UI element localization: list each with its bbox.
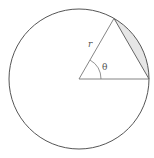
angle-arc <box>90 60 101 79</box>
circle-segment-diagram: r θ <box>0 0 154 158</box>
angle-label: θ <box>102 62 107 72</box>
radius-label: r <box>88 39 93 49</box>
radius-line-upper <box>79 18 114 79</box>
chord <box>114 18 149 79</box>
